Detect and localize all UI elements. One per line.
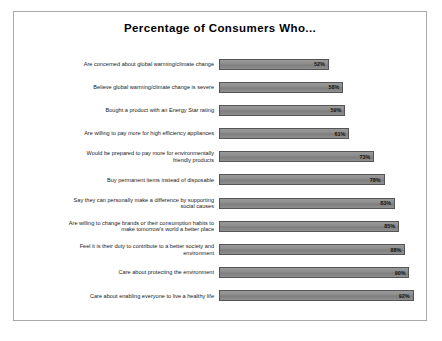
bar-row: Say they can personally make a differenc… <box>14 193 426 213</box>
bar-row: Believe global warming/climate change is… <box>14 77 426 97</box>
bar-track: 90% <box>219 263 426 283</box>
bar-track: 92% <box>219 286 426 306</box>
category-label: Say they can personally make a differenc… <box>14 197 219 210</box>
category-label: Are willing to pay more for high efficie… <box>14 130 219 137</box>
bar-value-label: 92% <box>399 293 413 299</box>
category-label: Buy permanent items instead of disposabl… <box>14 177 219 184</box>
bar-value-label: 85% <box>384 223 398 229</box>
bar-value-label: 88% <box>391 247 405 253</box>
bar: 73% <box>219 151 374 162</box>
chart-frame: Percentage of Consumers Who... Are conce… <box>13 11 427 321</box>
chart-title: Percentage of Consumers Who... <box>14 22 426 34</box>
category-label: Believe global warming/climate change is… <box>14 84 219 91</box>
bar-track: 73% <box>219 147 426 167</box>
category-label: Would be prepared to pay more for enviro… <box>14 150 219 163</box>
bar: 58% <box>219 82 343 93</box>
bar-value-label: 83% <box>380 200 394 206</box>
bar: 52% <box>219 59 329 70</box>
category-label: Bought a product with an Energy Star rat… <box>14 107 219 114</box>
bar-track: 58% <box>219 77 426 97</box>
bar-row: Care about enabling everyone to live a h… <box>14 286 426 306</box>
bar-value-label: 58% <box>328 84 342 90</box>
bar-track: 78% <box>219 170 426 190</box>
bar-chart-plot-area: Are concerned about global warming/clima… <box>14 52 426 308</box>
bar-value-label: 90% <box>395 270 409 276</box>
bar-row: Care about protecting the environment 90… <box>14 263 426 283</box>
bar-track: 52% <box>219 54 426 74</box>
bar: 88% <box>219 244 405 255</box>
bar-track: 61% <box>219 124 426 144</box>
bar-value-label: 59% <box>330 107 344 113</box>
bar-value-label: 61% <box>335 131 349 137</box>
bar-value-label: 78% <box>370 177 384 183</box>
bar-row: Buy permanent items instead of disposabl… <box>14 170 426 190</box>
category-label: Care about enabling everyone to live a h… <box>14 293 219 300</box>
bar: 61% <box>219 128 349 139</box>
bar-track: 88% <box>219 240 426 260</box>
bar: 85% <box>219 221 399 232</box>
bar-track: 83% <box>219 193 426 213</box>
bar-row: Are concerned about global warming/clima… <box>14 54 426 74</box>
category-label: Are willing to change brands or their co… <box>14 220 219 233</box>
bar: 59% <box>219 105 345 116</box>
category-label: Are concerned about global warming/clima… <box>14 61 219 68</box>
category-label: Care about protecting the environment <box>14 269 219 276</box>
bar-row: Would be prepared to pay more for enviro… <box>14 147 426 167</box>
bar: 92% <box>219 290 414 301</box>
bar-row: Bought a product with an Energy Star rat… <box>14 100 426 120</box>
bar-track: 59% <box>219 100 426 120</box>
bar-row: Are willing to pay more for high efficie… <box>14 124 426 144</box>
bar: 83% <box>219 198 395 209</box>
bar-row: Feel it is their duty to contribute to a… <box>14 240 426 260</box>
bar-value-label: 52% <box>314 61 328 67</box>
category-label: Feel it is their duty to contribute to a… <box>14 243 219 256</box>
bar: 78% <box>219 174 385 185</box>
bar: 90% <box>219 267 409 278</box>
bar-row: Are willing to change brands or their co… <box>14 216 426 236</box>
bar-value-label: 73% <box>359 154 373 160</box>
bar-track: 85% <box>219 216 426 236</box>
